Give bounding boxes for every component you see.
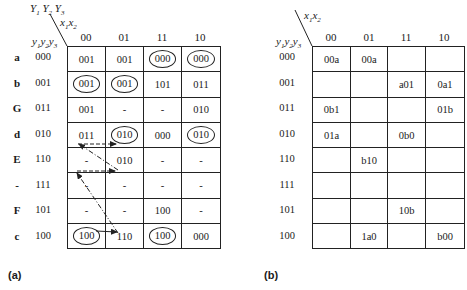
table-row: a010a1 — [313, 72, 465, 97]
map-cell — [351, 72, 388, 97]
map-cell: 01a — [313, 122, 351, 147]
next-state-value: - — [85, 155, 89, 166]
stable-state-value: 010 — [187, 126, 215, 144]
caption-b: (b) — [264, 269, 278, 281]
table-row: -010-- — [68, 148, 221, 173]
row-state-name: b — [10, 77, 24, 89]
table-row: b10 — [313, 148, 465, 173]
map-cell — [426, 173, 465, 198]
row-state-name: c — [10, 230, 24, 242]
stable-state-value: 000 — [149, 50, 177, 68]
map-cell: 011 — [68, 122, 106, 147]
row-state-code: 010 — [28, 128, 58, 139]
next-state-value: - — [199, 180, 203, 191]
next-state-value: - — [161, 104, 165, 115]
row-state-code: 111 — [272, 179, 302, 190]
row-state-code: 110 — [272, 153, 302, 164]
map-cell: - — [106, 97, 144, 122]
row-state-code: 100 — [272, 230, 302, 241]
map-cell: 000 — [144, 122, 182, 147]
next-state-value: 110 — [117, 231, 132, 242]
map-cell: 01b — [426, 97, 465, 122]
map-cell: - — [106, 173, 144, 198]
next-state-value: - — [123, 180, 127, 191]
next-state-value: 010 — [117, 155, 133, 166]
map-cell: - — [68, 198, 106, 223]
stable-state-value: 100 — [73, 227, 101, 245]
map-cell: 000 — [182, 224, 221, 249]
input-label: x1x2 — [60, 16, 77, 31]
stable-state-value: 100 — [149, 227, 177, 245]
table-row: 01a0b0 — [313, 122, 465, 147]
map-cell — [351, 122, 388, 147]
map-cell — [351, 97, 388, 122]
map-cell — [426, 148, 465, 173]
map-cell — [426, 122, 465, 147]
map-cell — [388, 97, 426, 122]
row-state-code: 011 — [272, 102, 302, 113]
karnaugh-map-b: 00a00aa010a10b101b01a0b0b1010b1a0b00 — [312, 46, 465, 249]
map-cell: - — [68, 148, 106, 173]
map-cell: b10 — [351, 148, 388, 173]
column-header: 01 — [105, 31, 143, 43]
stable-state-value: 000 — [187, 50, 215, 68]
map-cell — [313, 198, 351, 223]
map-cell: 0b1 — [313, 97, 351, 122]
map-cell — [388, 47, 426, 72]
row-state-code: 111 — [28, 179, 58, 190]
map-cell: - — [182, 148, 221, 173]
table-row: 011010000010 — [68, 122, 221, 147]
next-state-value: 010 — [193, 104, 209, 115]
map-cell — [388, 173, 426, 198]
next-state-value: 000 — [155, 130, 171, 141]
row-state-name: d — [10, 128, 24, 140]
map-cell: 0b0 — [388, 122, 426, 147]
stable-state-value: 001 — [73, 75, 101, 93]
map-cell: - — [144, 97, 182, 122]
row-state-name: - — [10, 179, 24, 191]
table-row: 0b101b — [313, 97, 465, 122]
table-row: 001001000000 — [68, 47, 221, 72]
row-state-code: 010 — [272, 128, 302, 139]
input-label: x1x2 — [304, 9, 321, 24]
map-cell: a01 — [388, 72, 426, 97]
map-cell: 1a0 — [351, 224, 388, 249]
map-cell — [426, 198, 465, 223]
row-state-code: 011 — [28, 102, 58, 113]
map-cell: 010 — [106, 148, 144, 173]
row-state-name: F — [10, 204, 24, 216]
map-cell: 100 — [144, 198, 182, 223]
row-state-name: E — [10, 153, 24, 165]
next-state-value: 011 — [79, 130, 94, 141]
column-header: 11 — [387, 31, 425, 43]
map-cell: 110 — [106, 224, 144, 249]
next-state-value: - — [161, 155, 165, 166]
next-state-value: - — [123, 205, 127, 216]
map-cell — [388, 148, 426, 173]
row-state-code: 101 — [28, 204, 58, 215]
map-cell: 101 — [144, 72, 182, 97]
next-state-value: 000 — [193, 231, 209, 242]
next-state-value: 011 — [193, 79, 208, 90]
next-state-value: - — [161, 180, 165, 191]
row-state-code: 001 — [272, 77, 302, 88]
next-state-value: - — [123, 104, 127, 115]
next-state-value: - — [199, 155, 203, 166]
karnaugh-map-a: 001001000000001001101011001--01001101000… — [67, 46, 221, 249]
state-label: y1y2y3 — [276, 35, 301, 50]
stable-state-value: 001 — [111, 75, 139, 93]
map-cell — [313, 173, 351, 198]
row-state-code: 110 — [28, 153, 58, 164]
map-cell — [351, 198, 388, 223]
map-cell: - — [182, 198, 221, 223]
map-cell: 001 — [106, 72, 144, 97]
column-header: 10 — [181, 31, 219, 43]
map-cell: 0a1 — [426, 72, 465, 97]
map-cell: 10b — [388, 198, 426, 223]
map-cell: - — [144, 173, 182, 198]
map-cell: 100 — [144, 224, 182, 249]
next-state-value: - — [85, 180, 89, 191]
caption-a: (a) — [8, 269, 21, 281]
table-row: 001001101011 — [68, 72, 221, 97]
map-cell: 001 — [68, 72, 106, 97]
